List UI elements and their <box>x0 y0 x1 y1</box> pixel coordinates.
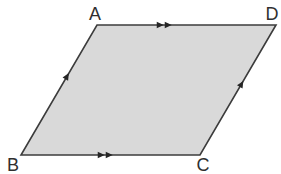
geometry-figure: ADCB <box>0 0 281 174</box>
parallelogram-shape <box>21 25 276 155</box>
vertex-label-a: A <box>89 4 101 24</box>
vertex-label-c: C <box>197 155 210 174</box>
parallelogram-diagram: ADCB <box>0 0 281 174</box>
vertex-label-b: B <box>7 155 19 174</box>
vertex-label-d: D <box>266 4 279 24</box>
